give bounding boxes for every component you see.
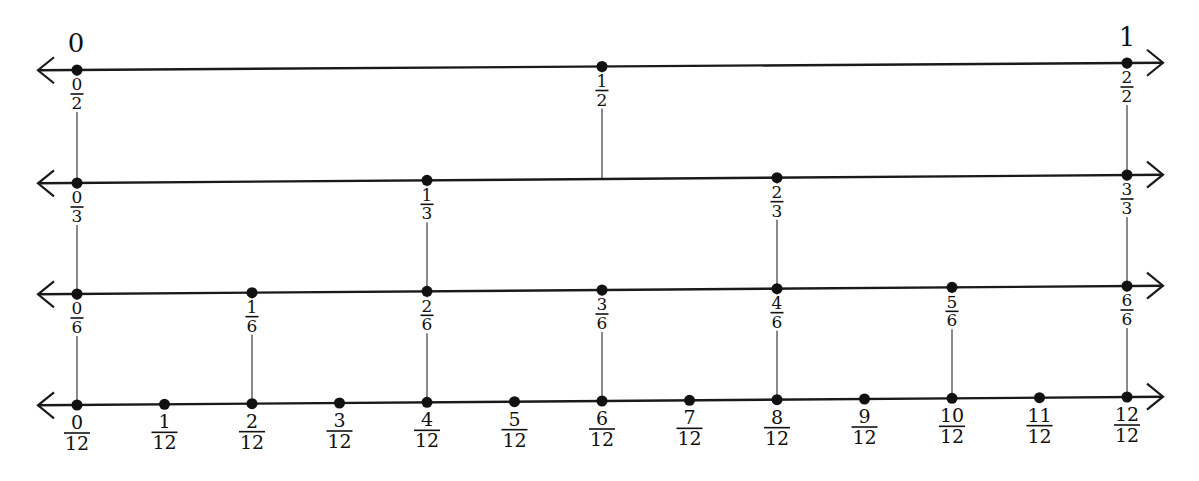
fraction-label: 12: [595, 71, 610, 110]
fraction-denominator: 12: [765, 427, 789, 449]
fraction-label: 012: [63, 411, 91, 454]
fraction-label: 36: [595, 294, 610, 333]
fraction-numerator: 1: [158, 410, 170, 432]
fraction-numerator: 10: [940, 404, 964, 426]
fraction-label: 212: [238, 410, 266, 453]
one-label: 1: [1119, 22, 1136, 52]
zero-label: 0: [68, 28, 85, 58]
fraction-numerator: 4: [421, 408, 433, 430]
fraction-numerator: 6: [596, 407, 608, 429]
fraction-label: 312: [326, 409, 354, 452]
fraction-denominator: 6: [247, 316, 258, 336]
tick-dot: [1122, 392, 1133, 403]
fraction-numerator: 2: [1122, 67, 1133, 87]
fraction-numerator: 5: [947, 292, 958, 312]
fraction-numerator: 1: [422, 185, 433, 205]
fraction-label: 22: [1120, 67, 1135, 106]
fraction-denominator: 2: [72, 93, 83, 113]
fraction-numerator: 6: [1122, 290, 1133, 310]
tick-dot: [597, 396, 608, 407]
tick-dot: [1034, 392, 1045, 403]
fraction-numerator: 11: [1027, 404, 1051, 426]
fraction-numerator: 8: [771, 406, 783, 428]
fraction-denominator: 2: [597, 90, 608, 110]
fraction-label: 23: [770, 182, 785, 221]
fraction-numerator: 1: [247, 297, 258, 317]
tick-dot: [72, 400, 83, 411]
fraction-numerator: 3: [1122, 179, 1133, 199]
fraction-denominator: 6: [772, 312, 783, 332]
fraction-denominator: 6: [1122, 309, 1133, 329]
fraction-label: 1012: [938, 404, 966, 447]
fraction-denominator: 12: [677, 427, 701, 449]
fraction-label: 912: [851, 405, 879, 448]
fraction-denominator: 3: [772, 201, 783, 221]
fraction-label: 66: [1120, 290, 1135, 329]
fraction-label: 712: [676, 406, 704, 449]
fraction-numerator: 7: [683, 406, 695, 428]
tick-dot: [422, 397, 433, 408]
fraction-numerator: 4: [772, 293, 783, 313]
fraction-numerator: 2: [772, 182, 783, 202]
fraction-numerator: 3: [597, 294, 608, 314]
tick-dot: [159, 399, 170, 410]
fraction-denominator: 12: [65, 432, 89, 454]
fraction-label: 1212: [1113, 403, 1141, 446]
fraction-label: 46: [770, 293, 785, 332]
fraction-label: 112: [151, 410, 179, 453]
number-line-thirds: [38, 162, 1163, 197]
fraction-numerator: 0: [72, 298, 83, 318]
fraction-numerator: 12: [1115, 403, 1139, 425]
tick-dot: [684, 395, 695, 406]
fraction-label: 412: [413, 408, 441, 451]
fraction-label: 03: [70, 187, 85, 226]
fraction-denominator: 6: [947, 310, 958, 330]
fraction-label: 612: [588, 407, 616, 450]
fraction-label: 06: [70, 298, 85, 337]
fraction-label: 33: [1120, 179, 1135, 218]
fraction-numerator: 0: [71, 411, 83, 433]
fraction-denominator: 12: [940, 425, 964, 447]
fraction-denominator: 3: [72, 206, 83, 226]
fraction-denominator: 12: [852, 426, 876, 448]
tick-dot: [509, 396, 520, 407]
fraction-denominator: 12: [152, 431, 176, 453]
fraction-denominator: 12: [415, 429, 439, 451]
tick-dot: [859, 394, 870, 405]
fraction-denominator: 3: [1122, 198, 1133, 218]
fraction-denominator: 6: [422, 314, 433, 334]
fraction-numerator: 9: [858, 405, 870, 427]
fraction-label: 16: [245, 297, 260, 336]
tick-dot: [772, 394, 783, 405]
fraction-label: 56: [945, 292, 960, 331]
fraction-label: 1112: [1026, 404, 1054, 447]
fraction-denominator: 12: [502, 429, 526, 451]
fraction-denominator: 2: [1122, 86, 1133, 106]
fraction-number-lines-diagram: 0212220313233306162636465666012112212312…: [0, 0, 1199, 481]
fraction-denominator: 12: [240, 431, 264, 453]
fraction-numerator: 5: [508, 408, 520, 430]
fraction-denominator: 6: [597, 313, 608, 333]
fraction-denominator: 6: [72, 317, 83, 337]
axis-line: [38, 175, 1163, 184]
fraction-label: 02: [70, 74, 85, 113]
fraction-denominator: 3: [422, 203, 433, 223]
fraction-numerator: 0: [72, 74, 83, 94]
fraction-denominator: 12: [327, 430, 351, 452]
fraction-denominator: 12: [1027, 425, 1051, 447]
fraction-numerator: 2: [422, 296, 433, 316]
fraction-numerator: 1: [597, 71, 608, 91]
fraction-label: 512: [501, 408, 529, 451]
fraction-label: 812: [763, 406, 791, 449]
tick-dot: [247, 398, 258, 409]
fraction-denominator: 12: [1115, 424, 1139, 446]
fraction-numerator: 2: [246, 410, 258, 432]
fraction-label: 13: [420, 185, 435, 224]
tick-dot: [334, 398, 345, 409]
fraction-numerator: 3: [333, 409, 345, 431]
fraction-numerator: 0: [72, 187, 83, 207]
tick-dot: [947, 393, 958, 404]
equivalence-connectors: [77, 63, 1127, 405]
fraction-denominator: 12: [590, 428, 614, 450]
fraction-label: 26: [420, 296, 435, 335]
